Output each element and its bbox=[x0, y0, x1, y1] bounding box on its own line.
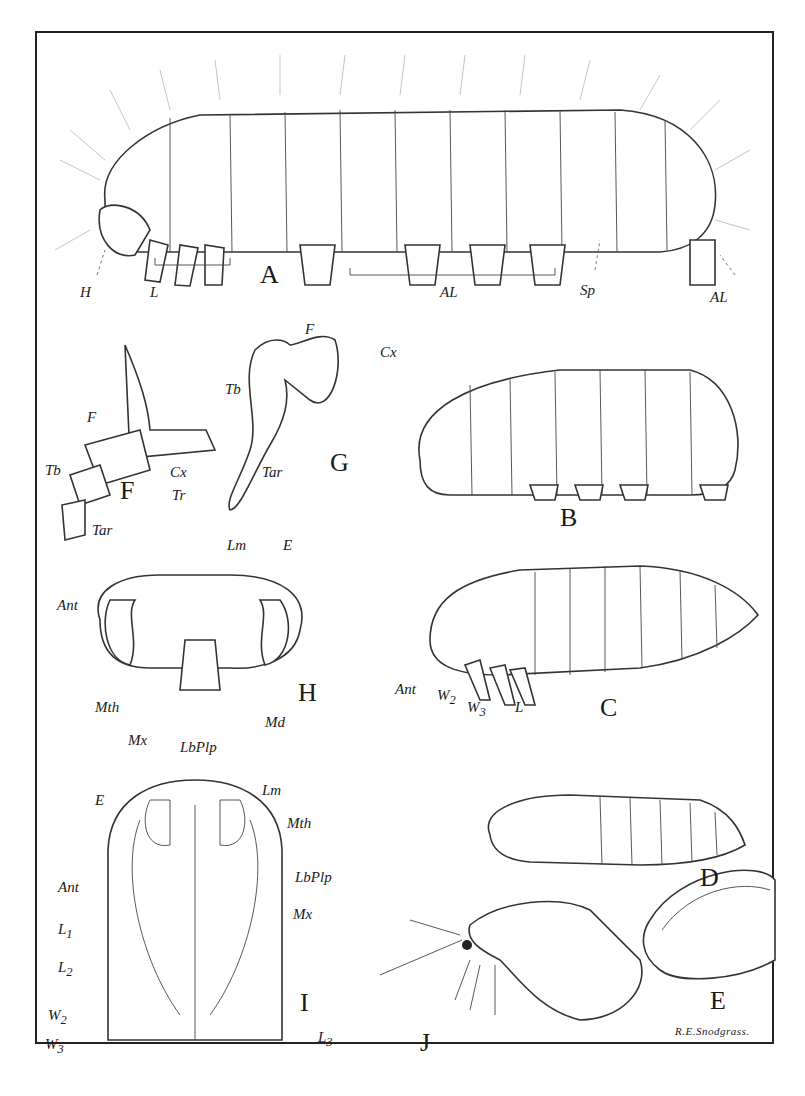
label-i-wing3-text: W bbox=[45, 1036, 58, 1052]
label-c-wing2-sub: 2 bbox=[450, 693, 456, 707]
figure-label-a: A bbox=[260, 262, 279, 288]
label-i-labrum: Lm bbox=[262, 783, 281, 798]
label-i-leg2-sub: 2 bbox=[66, 965, 72, 979]
figure-label-e: E bbox=[710, 988, 726, 1014]
figure-a-larva bbox=[55, 55, 750, 286]
label-g-tarsus: Tar bbox=[262, 465, 282, 480]
label-h-maxilla: Mx bbox=[128, 733, 147, 748]
label-i-wing2-sub: 2 bbox=[61, 1013, 67, 1027]
figure-label-b: B bbox=[560, 505, 577, 531]
label-i-wing3-sub: 3 bbox=[58, 1042, 64, 1056]
figure-label-j: J bbox=[420, 1030, 430, 1056]
label-h-mouth: Mth bbox=[95, 700, 119, 715]
label-g-tibia: Tb bbox=[225, 382, 241, 397]
label-i-leg1-sub: 1 bbox=[66, 927, 72, 941]
label-g-femur: F bbox=[305, 322, 314, 337]
label-f-trochanter: Tr bbox=[172, 488, 185, 503]
label-g-coxa: Cx bbox=[380, 345, 397, 360]
label-h-eye: E bbox=[283, 538, 292, 553]
illustrations bbox=[0, 0, 805, 1096]
label-f-coxa: Cx bbox=[170, 465, 187, 480]
figure-h-head bbox=[98, 575, 302, 690]
figure-i-pupa-ventral bbox=[108, 780, 282, 1040]
label-h-mandible: Md bbox=[265, 715, 285, 730]
label-i-leg1: L1 bbox=[58, 922, 73, 941]
figure-label-g: G bbox=[330, 450, 349, 476]
figure-label-i: I bbox=[300, 990, 309, 1016]
label-f-tarsus: Tar bbox=[92, 523, 112, 538]
label-h-labial-palp: LbPlp bbox=[180, 740, 217, 755]
label-c-wing2-text: W bbox=[437, 687, 450, 703]
label-a-legs: L bbox=[150, 285, 158, 300]
label-f-tibia: Tb bbox=[45, 463, 61, 478]
label-i-leg3: L3 bbox=[318, 1030, 333, 1049]
figure-f-leg bbox=[62, 345, 215, 540]
label-i-wing2: W2 bbox=[48, 1008, 67, 1027]
label-i-leg3-sub: 3 bbox=[326, 1035, 332, 1049]
figure-d-pupa bbox=[488, 795, 745, 865]
label-a-spiracle: Sp bbox=[580, 283, 595, 298]
label-c-antenna: Ant bbox=[395, 682, 416, 697]
label-a-head: H bbox=[80, 285, 91, 300]
figure-b-larva bbox=[419, 370, 738, 500]
label-i-maxilla: Mx bbox=[293, 907, 312, 922]
label-i-mouth: Mth bbox=[287, 816, 311, 831]
figure-label-d: D bbox=[700, 865, 719, 891]
figure-c-pupa bbox=[430, 566, 758, 705]
label-i-labial-palp: LbPlp bbox=[295, 870, 332, 885]
label-c-wing3-text: W bbox=[467, 699, 480, 715]
label-i-antenna: Ant bbox=[58, 880, 79, 895]
label-i-wing2-text: W bbox=[48, 1007, 61, 1023]
label-c-wing3: W3 bbox=[467, 700, 486, 719]
label-c-wing2: W2 bbox=[437, 688, 456, 707]
label-h-antenna: Ant bbox=[57, 598, 78, 613]
figure-g-leg bbox=[229, 337, 338, 510]
label-i-wing3: W3 bbox=[45, 1037, 64, 1056]
figure-label-h: H bbox=[298, 680, 317, 706]
figure-j-moth bbox=[380, 902, 642, 1020]
label-i-leg2: L2 bbox=[58, 960, 73, 979]
label-a-anal-leg: AL bbox=[710, 290, 728, 305]
label-c-leg: L bbox=[515, 700, 523, 715]
figure-label-f: F bbox=[120, 478, 134, 504]
artist-signature: R.E.Snodgrass. bbox=[675, 1025, 750, 1037]
label-c-wing3-sub: 3 bbox=[480, 705, 486, 719]
label-i-eye: E bbox=[95, 793, 104, 808]
label-f-femur: F bbox=[87, 410, 96, 425]
figure-label-c: C bbox=[600, 695, 617, 721]
label-a-abdominal-legs: AL bbox=[440, 285, 458, 300]
label-h-labrum: Lm bbox=[227, 538, 246, 553]
